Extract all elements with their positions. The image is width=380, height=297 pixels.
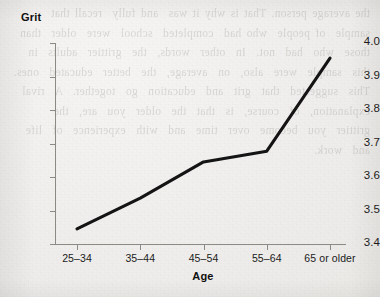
x-axis-title: Age <box>192 270 213 282</box>
grit-trend-line <box>77 58 330 229</box>
grit-by-age-figure: the average person. That is why it was a… <box>0 0 380 297</box>
chart-plot-area: Grit 3.43.53.63.73.83.94.0 25–3435–4445–… <box>0 0 380 297</box>
series-canvas <box>0 0 380 297</box>
